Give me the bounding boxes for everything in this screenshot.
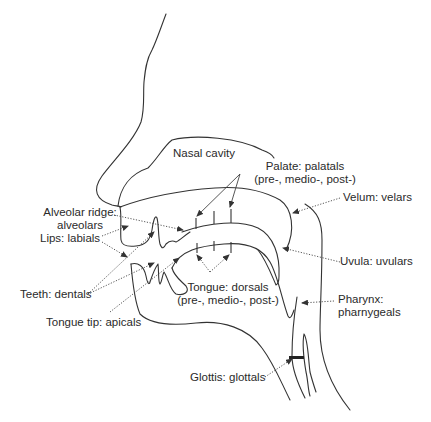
epiglottis-outline xyxy=(303,334,316,396)
label-alveolar-ridge: Alveolar ridge: alveolars xyxy=(40,206,120,232)
label-alveolar-line1: Alveolar ridge: xyxy=(40,206,120,219)
teeth-pointer-lower xyxy=(88,263,154,294)
label-tongue-line2: (pre-, medio-, post-) xyxy=(168,294,288,307)
label-glottis: Glottis: glottals xyxy=(190,371,265,384)
vocal-tract-diagram: Nasal cavity Palate: palatals (pre-, med… xyxy=(0,0,431,422)
uvula-pointer xyxy=(283,248,340,262)
alveolar-pointer xyxy=(114,215,183,230)
label-nasal-cavity: Nasal cavity xyxy=(173,147,235,160)
label-lips: Lips: labials xyxy=(40,232,100,245)
label-velum: Velum: velars xyxy=(343,191,412,204)
label-uvula: Uvula: uvulars xyxy=(340,255,413,268)
hard-palate-outline xyxy=(120,188,292,251)
glottis-pointer xyxy=(265,359,292,377)
label-tongue-tip: Tongue tip: apicals xyxy=(46,316,141,329)
label-palate-line2: (pre-, medio-, post-) xyxy=(240,173,370,186)
velum-pointer xyxy=(293,198,340,213)
label-pharynx-line2: pharnygeals xyxy=(338,306,401,319)
glottis-marker xyxy=(289,356,304,359)
upper-lip-outline xyxy=(120,207,190,248)
tongue-pointer-a xyxy=(197,255,210,272)
label-palate: Palate: palatals (pre-, medio-, post-) xyxy=(240,160,370,186)
label-tongue-line1: Tongue: dorsals xyxy=(168,281,288,294)
label-alveolar-line2: alveolars xyxy=(40,219,120,232)
pharynx-pointer xyxy=(302,301,334,303)
tongue-pointer-b xyxy=(210,255,229,272)
label-teeth: Teeth: dentals xyxy=(20,288,92,301)
label-pharynx: Pharynx: pharnygeals xyxy=(338,293,401,319)
label-palate-line1: Palate: palatals xyxy=(240,160,370,173)
label-tongue: Tongue: dorsals (pre-, medio-, post-) xyxy=(168,281,288,307)
label-pharynx-line1: Pharynx: xyxy=(338,293,401,306)
